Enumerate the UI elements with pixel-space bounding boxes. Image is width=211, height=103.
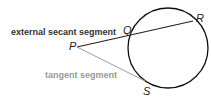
secant-tangent-diagram	[0, 0, 211, 103]
tangent-segment-label: tangent segment	[45, 70, 117, 80]
external-secant-segment-label: external secant segment	[11, 27, 116, 37]
point-q-label: Q	[123, 24, 132, 36]
point-p-label: P	[69, 40, 76, 52]
point-s-label: S	[143, 85, 150, 97]
point-r-label: R	[196, 12, 204, 24]
